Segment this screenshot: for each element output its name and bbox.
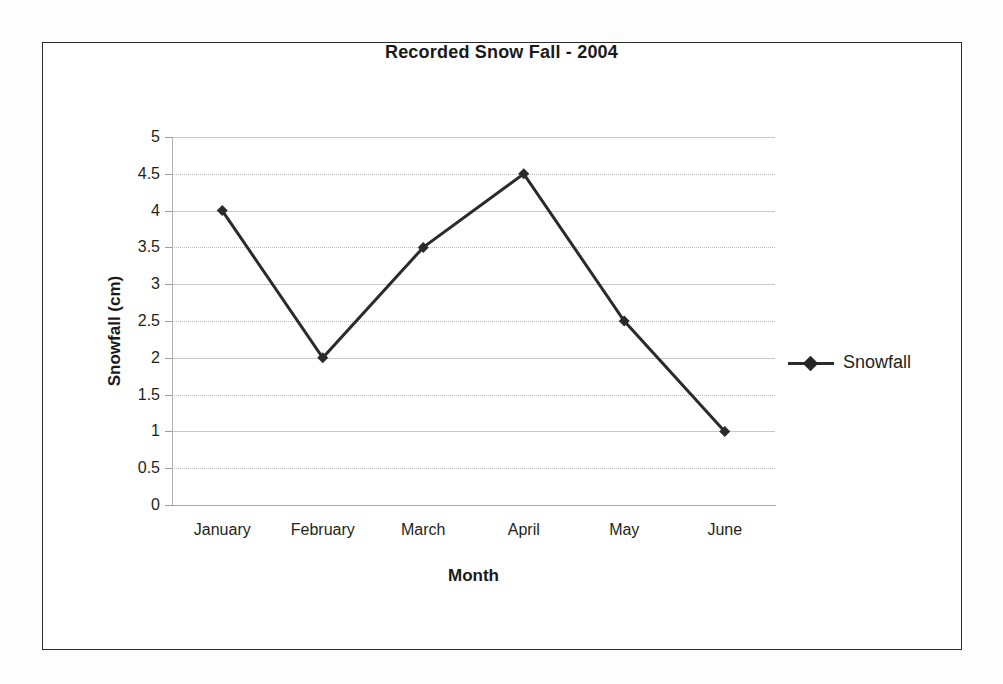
- chart-legend: Snowfall: [788, 352, 911, 373]
- y-axis-tick-label: 5: [100, 128, 160, 146]
- y-axis-tick: [165, 211, 172, 212]
- legend-item-label: Snowfall: [843, 352, 911, 373]
- page-background: Recorded Snow Fall - 2004 54.543.532.521…: [0, 0, 1003, 684]
- y-axis-tick: [165, 358, 172, 359]
- y-axis-tick-label: 4.5: [100, 165, 160, 183]
- y-axis-tick-label: 0: [100, 496, 160, 514]
- data-series-snowfall: [172, 137, 775, 505]
- y-axis-tick: [165, 395, 172, 396]
- series-line: [222, 174, 725, 432]
- y-axis-tick: [165, 505, 172, 506]
- y-axis-tick-label: 0.5: [100, 459, 160, 477]
- y-axis-tick: [165, 137, 172, 138]
- y-axis-title: Snowfall (cm): [105, 211, 125, 451]
- chart-title: Recorded Snow Fall - 2004: [0, 42, 1003, 63]
- x-axis-title: Month: [172, 566, 775, 586]
- y-axis-tick: [165, 321, 172, 322]
- x-axis-line: [172, 505, 776, 506]
- y-axis-tick: [165, 284, 172, 285]
- x-axis-tick-label: June: [665, 521, 785, 539]
- y-axis-tick: [165, 174, 172, 175]
- y-axis-tick: [165, 431, 172, 432]
- y-axis-tick: [165, 247, 172, 248]
- diamond-marker-icon: [788, 355, 834, 371]
- y-axis-tick: [165, 468, 172, 469]
